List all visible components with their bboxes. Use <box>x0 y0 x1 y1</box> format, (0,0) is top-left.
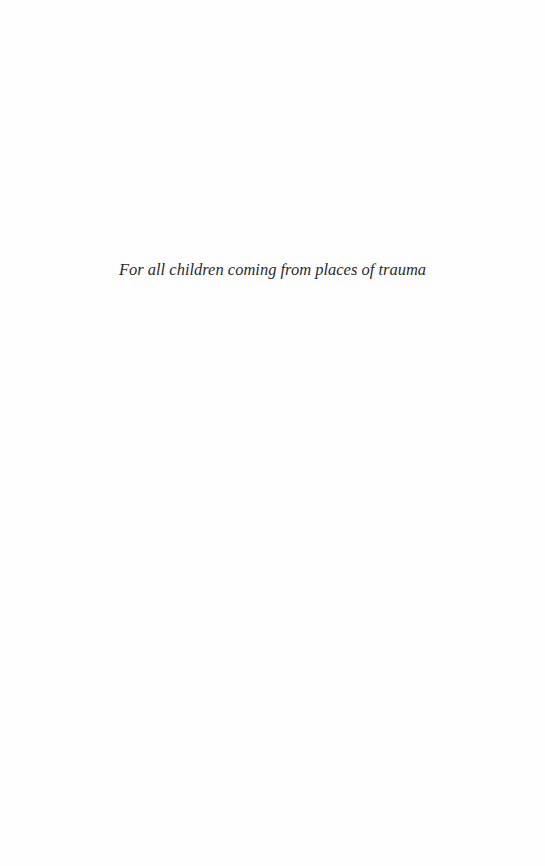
dedication-text: For all children coming from places of t… <box>0 260 545 280</box>
book-page: For all children coming from places of t… <box>0 0 545 866</box>
